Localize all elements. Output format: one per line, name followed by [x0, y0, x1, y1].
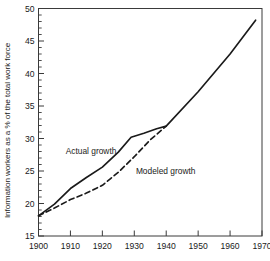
y-tick-label: 45 — [25, 36, 35, 46]
y-tick-label: 50 — [25, 4, 35, 14]
plot-border — [39, 9, 263, 237]
y-tick-label: 20 — [25, 199, 35, 209]
annotation-actual-growth: Actual growth — [66, 146, 117, 156]
series-line-actual-growth — [39, 20, 256, 216]
x-tick-label: 1910 — [61, 241, 80, 251]
x-tick-label: 1900 — [29, 241, 48, 251]
y-axis-ticks: 1520253035404550 — [25, 4, 44, 242]
annotation-modeled-growth: Modeled growth — [136, 166, 196, 176]
plot-canvas: 1520253035404550 19001910192019301940195… — [0, 0, 270, 261]
y-tick-label: 25 — [25, 166, 35, 176]
x-tick-label: 1950 — [189, 241, 208, 251]
x-axis-ticks: 19001910192019301940195019601970 — [29, 231, 270, 251]
x-tick-label: 1960 — [221, 241, 240, 251]
chart-figure: Information workers as a % of the total … — [0, 0, 270, 261]
x-tick-label: 1930 — [125, 241, 144, 251]
y-tick-label: 40 — [25, 69, 35, 79]
x-tick-label: 1920 — [93, 241, 112, 251]
x-tick-label: 1970 — [252, 241, 270, 251]
axes-frame — [39, 9, 263, 237]
x-tick-label: 1940 — [157, 241, 176, 251]
data-series-layer — [39, 20, 256, 216]
y-tick-label: 30 — [25, 134, 35, 144]
y-tick-label: 35 — [25, 101, 35, 111]
